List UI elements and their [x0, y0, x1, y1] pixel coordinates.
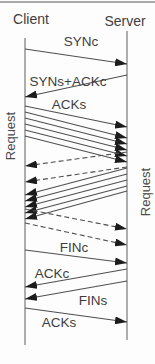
- message-label: SYNc: [64, 34, 99, 49]
- message-server-ack-2: [25, 167, 127, 182]
- message-fin-s: [25, 281, 127, 299]
- message-label: FINc: [60, 240, 89, 255]
- message-response-seg-3: [25, 180, 127, 207]
- message-syn-c: [25, 49, 127, 64]
- sequence-diagram-canvas: [0, 0, 155, 364]
- message-client-ack-1: [25, 209, 127, 229]
- message-response-seg-5: [25, 191, 127, 219]
- server-lifeline-label: Server: [104, 13, 145, 29]
- request-span-label-client: Request: [3, 112, 18, 160]
- message-label: ACKc: [35, 266, 70, 281]
- message-label: ACKs: [52, 97, 87, 112]
- message-arrows: [25, 49, 127, 322]
- message-response-seg-2: [25, 174, 127, 201]
- message-response-seg-4: [25, 186, 127, 213]
- request-span-label-server: Request: [138, 168, 153, 216]
- message-response-seg-1: [25, 168, 127, 195]
- message-label: FINs: [79, 293, 108, 308]
- message-request-seg-3: [25, 124, 127, 150]
- message-server-ack-1: [25, 152, 127, 166]
- tcp-sequence-diagram: Client Server Request Request SYNcSYNs+A…: [0, 0, 155, 364]
- client-lifeline-label: Client: [13, 11, 49, 27]
- message-label: SYNs+ACKc: [30, 74, 107, 89]
- message-label: ACKs: [42, 315, 77, 330]
- diagram-lines: [0, 2, 155, 345]
